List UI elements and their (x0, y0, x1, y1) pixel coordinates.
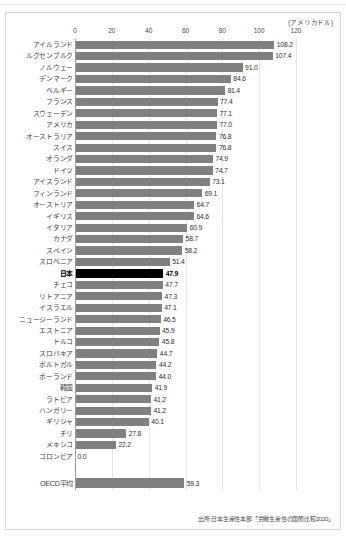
bar-value-10: 74.9 (215, 153, 227, 164)
bar-value-36: 0.0 (78, 451, 87, 462)
bar-value-26: 45.8 (162, 336, 174, 347)
table-row[interactable]: アイルランド108.2 (6, 39, 342, 50)
x-axis-tick-100: 100 (254, 27, 265, 34)
bar-17 (75, 235, 183, 243)
table-row[interactable]: イタリア60.9 (6, 222, 342, 233)
table-row[interactable]: デンマーク84.6 (6, 73, 342, 84)
table-row[interactable]: コロンビア0.0 (6, 451, 342, 462)
table-row[interactable]: メキシコ22.2 (6, 439, 342, 450)
bar-value-13: 69.1 (205, 188, 217, 199)
table-row[interactable]: スイス76.8 (6, 142, 342, 153)
x-axis-tick-20: 20 (108, 27, 115, 34)
table-row[interactable]: ニュージーランド46.5 (6, 314, 342, 325)
row-label-12: アイスランド (0, 176, 73, 187)
bar-track: 47.9 (75, 268, 342, 279)
bar-35 (75, 441, 116, 449)
table-row[interactable]: ラトビア41.2 (6, 394, 342, 405)
table-row[interactable]: スロベニア51.4 (6, 256, 342, 267)
bar-32 (75, 407, 151, 415)
table-row[interactable]: トルコ45.8 (6, 336, 342, 347)
bar-value-20: 47.9 (166, 268, 178, 279)
table-row[interactable]: ポルトガル44.2 (6, 359, 342, 370)
row-label-26: トルコ (0, 336, 73, 347)
bar-value-8: 76.8 (219, 131, 231, 142)
bar-31 (75, 395, 151, 403)
bar-track: 44.7 (75, 348, 342, 359)
bar-value-24: 46.5 (163, 314, 175, 325)
row-label-3: デンマーク (0, 73, 73, 84)
table-row[interactable]: スロバキア44.7 (6, 348, 342, 359)
bar-13 (75, 189, 202, 197)
bar-track: 58.2 (75, 245, 342, 256)
row-label-0: アイルランド (0, 39, 73, 50)
bar-6 (75, 109, 217, 117)
bar-14 (75, 201, 194, 209)
bar-4 (75, 86, 225, 94)
table-row[interactable]: チェコ47.7 (6, 279, 342, 290)
bar-16 (75, 224, 187, 232)
table-row[interactable]: ポーランド44.0 (6, 371, 342, 382)
table-row[interactable]: カナダ58.7 (6, 233, 342, 244)
row-label-36: コロンビア (0, 451, 73, 462)
bar-track: 40.1 (75, 416, 342, 427)
table-row[interactable]: 日本47.9 (6, 268, 342, 279)
row-label-10: オランダ (0, 153, 73, 164)
bar-track: 77.0 (75, 119, 342, 130)
row-label-4: ベルギー (0, 85, 73, 96)
table-row[interactable]: アイスランド73.1 (6, 176, 342, 187)
bar-30 (75, 384, 152, 392)
table-row[interactable]: フランス77.4 (6, 96, 342, 107)
row-label-average: OECD平均 (0, 477, 73, 490)
table-row[interactable]: エストニア45.9 (6, 325, 342, 336)
table-row[interactable]: 韓国41.9 (6, 382, 342, 393)
table-row[interactable]: イスラエル47.1 (6, 302, 342, 313)
table-row[interactable]: ドイツ74.7 (6, 165, 342, 176)
bar-track: 58.7 (75, 233, 342, 244)
table-row[interactable]: ベルギー81.4 (6, 85, 342, 96)
bar-value-7: 77.0 (219, 119, 231, 130)
table-row[interactable]: オランダ74.9 (6, 153, 342, 164)
source-note: 出所:日本生産性本部「労働生産性の国際比較2020」 (198, 514, 334, 523)
bar-value-23: 47.1 (164, 302, 176, 313)
table-row[interactable]: オーストリア64.7 (6, 199, 342, 210)
bar-29 (75, 372, 156, 380)
table-row[interactable]: フィンランド69.1 (6, 188, 342, 199)
bar-1 (75, 52, 273, 60)
table-row[interactable]: ギリシャ40.1 (6, 416, 342, 427)
x-axis-tick-120: 120 (291, 27, 302, 34)
bar-track: 59.3 (75, 477, 342, 490)
row-label-6: スウェーデン (0, 108, 73, 119)
bar-track: 76.8 (75, 142, 342, 153)
table-row[interactable]: リトアニア47.3 (6, 291, 342, 302)
table-row[interactable]: ノルウェー91.0 (6, 62, 342, 73)
bar-value-31: 41.2 (153, 394, 165, 405)
bar-2 (75, 63, 243, 71)
x-axis-tick-60: 60 (182, 27, 189, 34)
table-row[interactable]: スペイン58.2 (6, 245, 342, 256)
table-row[interactable]: ルクセンブルク107.4 (6, 50, 342, 61)
bar-value-16: 60.9 (190, 222, 202, 233)
bar-average (75, 478, 184, 488)
table-row[interactable]: OECD平均 59.3 (6, 477, 342, 490)
bar-track: 47.7 (75, 279, 342, 290)
bar-33 (75, 418, 149, 426)
row-label-25: エストニア (0, 325, 73, 336)
table-row[interactable]: ハンガリー41.2 (6, 405, 342, 416)
row-label-34: チリ (0, 428, 73, 439)
bar-track: 0.0 (75, 451, 342, 462)
table-row[interactable]: オーストラリア76.8 (6, 131, 342, 142)
bar-value-25: 45.9 (162, 325, 174, 336)
x-axis-tick-80: 80 (219, 27, 226, 34)
bar-26 (75, 338, 159, 346)
row-label-16: イタリア (0, 222, 73, 233)
table-row[interactable]: チリ27.8 (6, 428, 342, 439)
bar-track: 46.5 (75, 314, 342, 325)
row-label-28: ポルトガル (0, 359, 73, 370)
x-axis-tick-0: 0 (73, 27, 77, 34)
row-label-33: ギリシャ (0, 416, 73, 427)
table-row[interactable]: イギリス64.6 (6, 211, 342, 222)
bar-20 (75, 269, 163, 277)
bar-track: 47.3 (75, 291, 342, 302)
table-row[interactable]: スウェーデン77.1 (6, 108, 342, 119)
table-row[interactable]: アメリカ77.0 (6, 119, 342, 130)
